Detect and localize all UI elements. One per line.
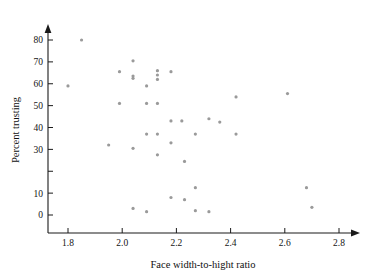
data-point bbox=[310, 206, 313, 209]
data-point bbox=[234, 132, 237, 135]
data-point bbox=[145, 102, 148, 105]
x-tick-label: 2.2 bbox=[170, 238, 182, 248]
data-point bbox=[156, 132, 159, 135]
data-point bbox=[183, 198, 186, 201]
data-point bbox=[180, 119, 183, 122]
data-point bbox=[207, 210, 210, 213]
x-tick-label: 1.8 bbox=[62, 238, 74, 248]
x-tick-label: 2.4 bbox=[225, 238, 237, 248]
data-point bbox=[194, 186, 197, 189]
data-point bbox=[145, 84, 148, 87]
data-point bbox=[286, 92, 289, 95]
tick-labels-group: 1.82.02.22.42.62.8010304050607080 bbox=[34, 35, 346, 248]
data-point bbox=[145, 210, 148, 213]
data-point bbox=[131, 207, 134, 210]
data-point bbox=[107, 143, 110, 146]
data-point bbox=[80, 38, 83, 41]
plot-canvas: 1.82.02.22.42.62.8010304050607080 Face w… bbox=[0, 0, 381, 275]
data-point bbox=[145, 132, 148, 135]
data-point bbox=[156, 102, 159, 105]
data-point bbox=[169, 196, 172, 199]
data-point bbox=[156, 69, 159, 72]
y-tick-label: 10 bbox=[34, 189, 44, 199]
data-point bbox=[156, 78, 159, 81]
data-point bbox=[207, 117, 210, 120]
y-tick-label: 40 bbox=[34, 123, 44, 133]
data-point bbox=[194, 209, 197, 212]
data-point bbox=[131, 77, 134, 80]
y-tick-label: 50 bbox=[34, 101, 44, 111]
data-point bbox=[66, 84, 69, 87]
data-point bbox=[183, 160, 186, 163]
y-tick-label: 70 bbox=[34, 57, 44, 67]
data-point bbox=[118, 102, 121, 105]
y-tick-label: 60 bbox=[34, 79, 44, 89]
y-tick-label: 80 bbox=[34, 35, 44, 45]
axes-group bbox=[45, 24, 360, 236]
data-point bbox=[169, 119, 172, 122]
scatter-plot-figure: 1.82.02.22.42.62.8010304050607080 Face w… bbox=[0, 0, 381, 275]
data-point bbox=[169, 141, 172, 144]
x-tick-label: 2.8 bbox=[333, 238, 345, 248]
x-tick-label: 2.0 bbox=[116, 238, 128, 248]
x-tick-label: 2.6 bbox=[279, 238, 291, 248]
y-axis-title: Percent trusting bbox=[10, 96, 21, 163]
tick-marks-group bbox=[48, 40, 339, 233]
data-point bbox=[131, 147, 134, 150]
data-points-group bbox=[66, 38, 313, 213]
data-point bbox=[156, 153, 159, 156]
data-point bbox=[194, 132, 197, 135]
data-point bbox=[156, 73, 159, 76]
data-point bbox=[234, 95, 237, 98]
data-point bbox=[305, 186, 308, 189]
y-axis-arrow bbox=[45, 24, 52, 33]
data-point bbox=[218, 120, 221, 123]
data-point bbox=[131, 59, 134, 62]
x-axis-arrow bbox=[351, 230, 360, 237]
y-tick-label: 0 bbox=[38, 210, 43, 220]
x-axis-title: Face width-to-hight ratio bbox=[151, 259, 256, 270]
data-point bbox=[169, 70, 172, 73]
data-point bbox=[118, 70, 121, 73]
y-tick-label: 30 bbox=[34, 145, 44, 155]
